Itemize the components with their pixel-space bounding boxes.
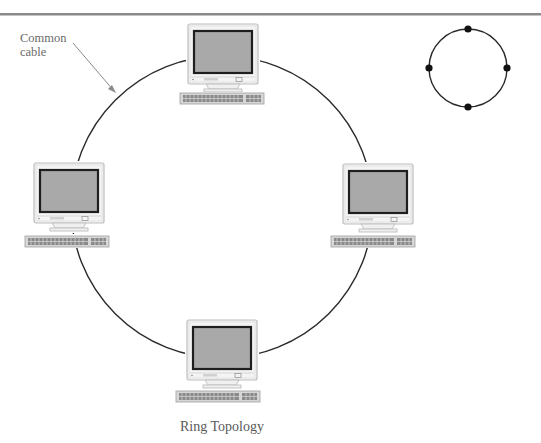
diagram-canvas — [0, 0, 541, 443]
label-line-2: cable — [20, 45, 67, 59]
ring-topology-icon — [425, 25, 510, 110]
diagram-caption: Ring Topology — [180, 419, 264, 435]
annotation-arrow — [73, 43, 116, 93]
header-rule — [0, 13, 541, 16]
ring-topology-diagram: Common cable Ring Topology — [0, 0, 541, 443]
computer-left — [23, 161, 111, 248]
computer-top — [178, 22, 266, 106]
common-cable-label: Common cable — [20, 31, 67, 59]
computer-right — [329, 162, 417, 248]
keyboard-icon — [180, 93, 264, 104]
label-line-1: Common — [20, 31, 67, 45]
computer-bottom — [174, 318, 262, 403]
